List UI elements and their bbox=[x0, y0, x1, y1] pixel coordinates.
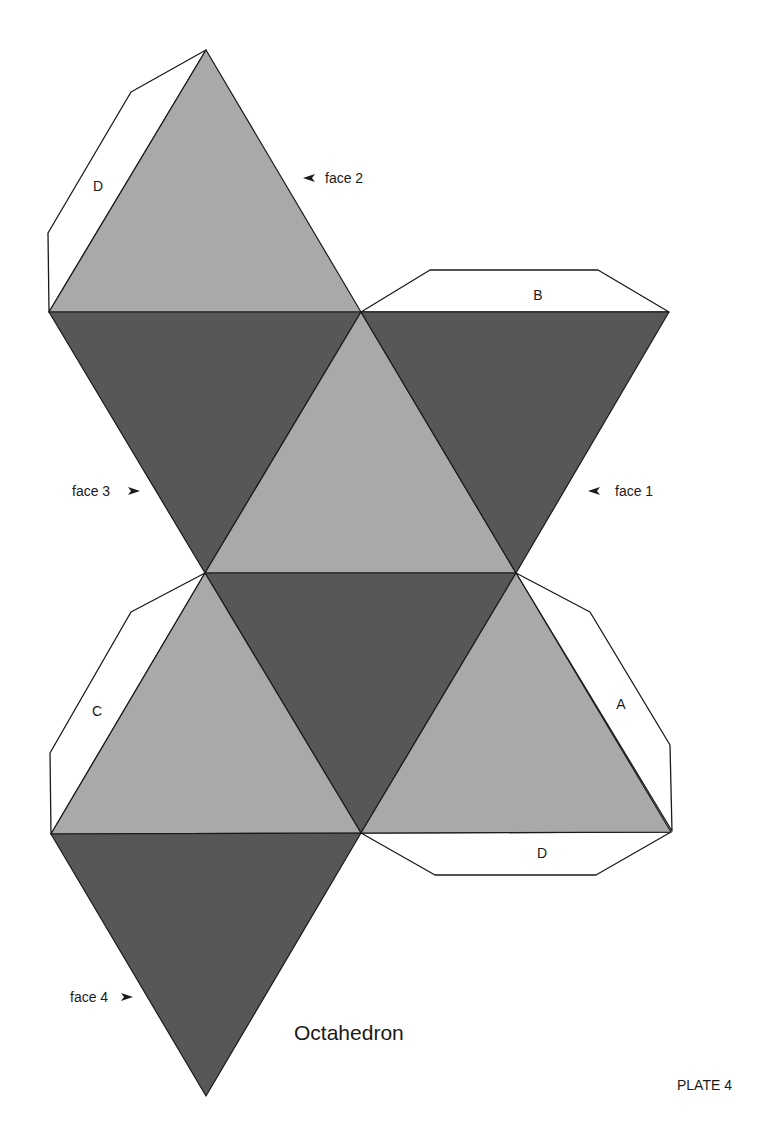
arrow-right-icon bbox=[121, 993, 133, 1001]
tab-label-c: C bbox=[92, 703, 102, 719]
arrow-right-icon bbox=[128, 487, 140, 495]
tab-label-d-top: D bbox=[93, 178, 103, 194]
face-label-3: face 3 bbox=[72, 483, 110, 499]
face-label-2: face 2 bbox=[325, 170, 363, 186]
arrow-left-icon bbox=[303, 174, 315, 182]
octahedron-net: D B C A D face 2 face 3 face 1 face 4 Oc… bbox=[0, 0, 762, 1142]
glue-tab-b bbox=[361, 270, 669, 312]
diagram-title: Octahedron bbox=[294, 1021, 404, 1044]
face-bottom-dark bbox=[51, 833, 361, 1096]
tab-label-d-bottom: D bbox=[537, 845, 547, 861]
plate-number: PLATE 4 bbox=[677, 1077, 732, 1093]
tab-label-b: B bbox=[533, 287, 542, 303]
arrow-left-icon bbox=[588, 487, 600, 495]
tab-label-a: A bbox=[616, 696, 626, 712]
face-label-4: face 4 bbox=[70, 989, 108, 1005]
face-label-1: face 1 bbox=[615, 483, 653, 499]
glue-tab-d-bottom bbox=[361, 832, 671, 875]
